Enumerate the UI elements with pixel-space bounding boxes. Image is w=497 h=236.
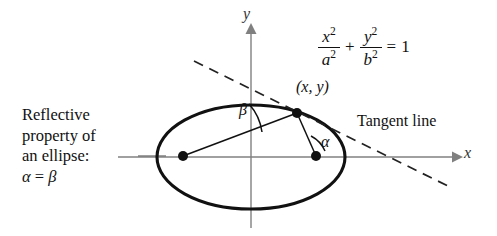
fraction-denominator-a: a2 — [319, 48, 339, 69]
fraction-denominator-b: b2 — [360, 48, 380, 69]
x-axis — [118, 152, 463, 163]
equation-y-exponent: 2 — [371, 25, 377, 38]
equation-right-hand-side: 1 — [401, 37, 410, 57]
angle-label-alpha: α — [321, 133, 329, 151]
caption-line-2: property of — [22, 126, 152, 147]
equation-plus-operator: + — [343, 37, 357, 57]
ellipse-equation: x2 a2 + y2 b2 = 1 — [318, 26, 410, 68]
focal-radius-left — [183, 113, 297, 156]
angle-label-beta: β — [239, 101, 247, 119]
equation-b-variable: b — [363, 49, 372, 68]
caption-line-4: α = β — [22, 167, 152, 188]
fraction-numerator-x: x2 — [319, 26, 338, 47]
tangent-point-label: (x, y) — [296, 78, 329, 96]
tangent-line-label: Tangent line — [357, 112, 436, 130]
equation-x-exponent: 2 — [330, 25, 336, 38]
equation-x-variable: x — [322, 27, 330, 46]
y-axis — [246, 23, 257, 228]
x-axis-arrowhead — [452, 152, 463, 163]
fraction-numerator-y: y2 — [361, 26, 380, 47]
equation-equals-operator: = — [385, 37, 399, 57]
focus-left-dot — [178, 151, 188, 161]
focus-right-dot — [311, 151, 321, 161]
y-axis-arrowhead — [246, 23, 257, 34]
caption-line-3: an ellipse: — [22, 146, 152, 167]
caption-beta-symbol: β — [48, 167, 56, 186]
figure-root: Reflective property of an ellipse: α = β… — [0, 0, 497, 236]
caption-equals-symbol: = — [35, 167, 44, 186]
tangent-point-dot — [292, 108, 302, 118]
fraction-y-over-b: y2 b2 — [360, 26, 382, 68]
y-axis-label: y — [243, 5, 250, 23]
x-axis-label: x — [464, 144, 471, 162]
caption-block: Reflective property of an ellipse: α = β — [22, 105, 152, 187]
caption-alpha-symbol: α — [22, 167, 31, 186]
fraction-x-over-a: x2 a2 — [318, 26, 340, 68]
equation-b-exponent: 2 — [372, 48, 378, 61]
caption-line-1: Reflective — [22, 105, 152, 126]
equation-a-exponent: 2 — [330, 48, 336, 61]
